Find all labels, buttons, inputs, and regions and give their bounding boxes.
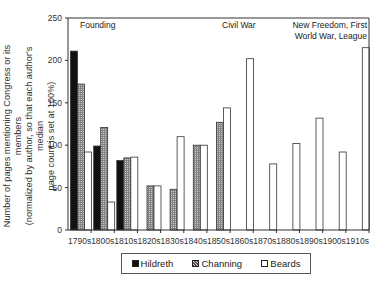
- bar-hildreth-1800s: [94, 146, 101, 230]
- bar-channing-1820s: [147, 186, 154, 230]
- bar-channing-1800s: [101, 127, 108, 230]
- annotation-new-freedom-line-2: World War, League: [288, 31, 367, 42]
- bar-channing-1830s: [170, 189, 177, 230]
- legend-item-hildreth: Hildreth: [132, 258, 174, 269]
- annotation-new-freedom: New Freedom, First World War, League: [288, 20, 367, 42]
- channing-swatch-icon: [192, 260, 199, 267]
- x-tick-label: 1870s: [252, 236, 278, 246]
- bar-beards-1890s: [316, 118, 323, 230]
- x-tick-label: 1790s: [67, 236, 93, 246]
- bar-channing-1810s: [124, 158, 131, 230]
- x-tick-label: 1890s: [298, 236, 324, 246]
- y-tick-label: 150: [40, 98, 62, 108]
- x-tick-label: 1800s: [90, 236, 116, 246]
- y-axis-label-line-3: page count is set at 100%): [46, 36, 57, 236]
- bar-beards-1880s: [293, 144, 300, 231]
- bar-beards-1860s: [247, 59, 254, 230]
- x-tick-label: 1810s: [113, 236, 139, 246]
- bar-beards-1900s: [339, 152, 346, 230]
- bar-channing-1850s: [216, 122, 223, 230]
- x-tick-label: 1860s: [229, 236, 255, 246]
- y-axis-label: Number of pages mentioning Congress or i…: [2, 36, 42, 236]
- chart-container: Number of pages mentioning Congress or i…: [0, 0, 383, 288]
- x-tick-label: 1900s: [321, 236, 347, 246]
- hildreth-swatch-icon: [132, 260, 139, 267]
- bar-beards-1840s: [200, 145, 207, 230]
- bars-group: [71, 48, 370, 230]
- y-tick-label: 50: [40, 183, 62, 193]
- legend-item-beards: Beards: [261, 258, 300, 269]
- y-axis-label-line-1: Number of pages mentioning Congress or i…: [2, 36, 24, 236]
- annotation-founding-text: Founding: [80, 20, 115, 31]
- legend-label-beards: Beards: [270, 258, 300, 269]
- bar-hildreth-1790s: [71, 51, 78, 230]
- bar-beards-1910s: [362, 48, 369, 230]
- y-tick-label: 100: [40, 140, 62, 150]
- legend-item-channing: Channing: [192, 258, 242, 269]
- annotation-founding: Founding: [80, 20, 115, 31]
- x-tick-label: 1850s: [206, 236, 232, 246]
- bar-channing-1790s: [78, 84, 85, 230]
- beards-swatch-icon: [261, 260, 268, 267]
- x-tick-label: 1840s: [182, 236, 208, 246]
- bar-hildreth-1810s: [117, 161, 124, 231]
- annotation-civil-war: Civil War: [222, 20, 256, 31]
- x-tick-label: 1880s: [275, 236, 301, 246]
- legend-label-channing: Channing: [201, 258, 242, 269]
- legend-label-hildreth: Hildreth: [141, 258, 174, 269]
- y-tick-label: 200: [40, 55, 62, 65]
- annotation-new-freedom-line-1: New Freedom, First: [288, 20, 367, 31]
- bar-beards-1850s: [223, 108, 230, 230]
- bar-beards-1830s: [177, 137, 184, 230]
- legend: Hildreth Channing Beards: [121, 253, 311, 274]
- annotation-civil-war-text: Civil War: [222, 20, 256, 31]
- y-tick-label: 0: [40, 225, 62, 235]
- y-axis-label-line-2: (normalized by author, so that each auth…: [24, 36, 46, 236]
- x-tick-label: 1820s: [136, 236, 162, 246]
- bar-beards-1800s: [108, 202, 115, 230]
- bar-beards-1870s: [270, 164, 277, 230]
- bar-beards-1790s: [85, 152, 92, 230]
- y-tick-label: 250: [40, 13, 62, 23]
- bar-channing-1840s: [193, 145, 200, 230]
- bar-beards-1810s: [131, 157, 138, 230]
- x-tick-label: 1910s: [344, 236, 370, 246]
- x-tick-label: 1830s: [159, 236, 185, 246]
- bar-beards-1820s: [154, 186, 161, 230]
